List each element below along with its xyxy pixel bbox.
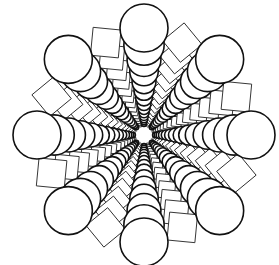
square-shape (221, 81, 252, 112)
radial-circle-square-pattern (0, 0, 279, 265)
square-shape (167, 212, 198, 243)
circle-shape (120, 218, 168, 265)
circle-arms (13, 4, 275, 265)
circle-shape (13, 111, 61, 159)
square-shape (90, 27, 121, 58)
circle-shape (227, 111, 275, 159)
circle-shape (196, 187, 244, 235)
circle-shape (120, 4, 168, 52)
circle-shape (196, 35, 244, 83)
circle-shape (44, 187, 92, 235)
circle-shape (44, 35, 92, 83)
square-shape (36, 158, 67, 189)
